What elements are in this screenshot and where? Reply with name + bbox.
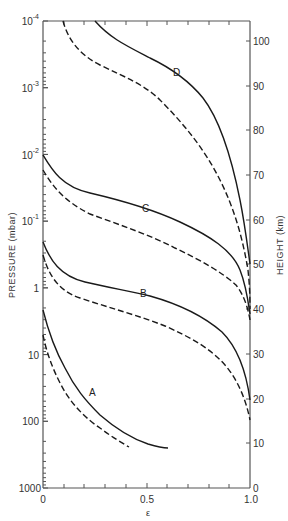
curves xyxy=(43,21,250,448)
svg-text:10: 10 xyxy=(253,438,265,449)
x-tick-label-1-0: 1.0 xyxy=(244,494,258,505)
svg-text:10-1: 10-1 xyxy=(22,213,39,227)
svg-text:80: 80 xyxy=(253,125,265,136)
svg-text:60: 60 xyxy=(253,215,265,226)
svg-text:10-3: 10-3 xyxy=(22,80,39,94)
y-left-tick-labels: 10-4 10-3 10-2 10-1 1 10 100 1000 xyxy=(19,13,42,494)
curve-a-solid xyxy=(43,310,168,448)
svg-text:100: 100 xyxy=(22,416,39,427)
curve-label-d: D xyxy=(173,67,180,78)
svg-text:20: 20 xyxy=(253,394,265,405)
plot-frame xyxy=(43,21,250,488)
chart: 0 0.5 1.0 ε 10-4 10-3 10-2 10-1 1 10 100… xyxy=(0,0,288,521)
svg-text:30: 30 xyxy=(253,349,265,360)
x-tick-label-0-5: 0.5 xyxy=(140,494,154,505)
svg-text:40: 40 xyxy=(253,304,265,315)
y-right-axis-title: HEIGHT (km) xyxy=(275,215,285,275)
curve-d-dashed xyxy=(63,21,250,309)
svg-text:0: 0 xyxy=(253,483,259,494)
svg-text:70: 70 xyxy=(253,170,265,181)
curve-a-dashed xyxy=(43,335,129,447)
svg-text:100: 100 xyxy=(253,36,270,47)
svg-text:1000: 1000 xyxy=(19,483,42,494)
x-tick-label-0: 0 xyxy=(40,494,46,505)
svg-text:10-2: 10-2 xyxy=(22,147,39,161)
curve-b-dashed xyxy=(43,255,250,420)
curve-label-a: A xyxy=(89,387,96,398)
y-left-ticks xyxy=(43,21,48,488)
x-ticks xyxy=(64,21,229,488)
curve-label-b: B xyxy=(140,288,147,299)
y-right-tick-labels: 0 10 20 30 40 50 60 70 80 90 100 xyxy=(253,36,270,494)
curve-b-solid xyxy=(43,242,250,400)
x-axis-title: ε xyxy=(146,508,150,518)
svg-text:10-4: 10-4 xyxy=(22,13,39,27)
curve-d-solid xyxy=(95,21,250,264)
svg-text:1: 1 xyxy=(33,283,39,294)
curve-label-c: C xyxy=(142,203,149,214)
y-left-axis-title: PRESSURE (mbar) xyxy=(7,212,17,298)
svg-text:50: 50 xyxy=(253,259,265,270)
svg-text:10: 10 xyxy=(28,350,40,361)
svg-text:90: 90 xyxy=(253,81,265,92)
